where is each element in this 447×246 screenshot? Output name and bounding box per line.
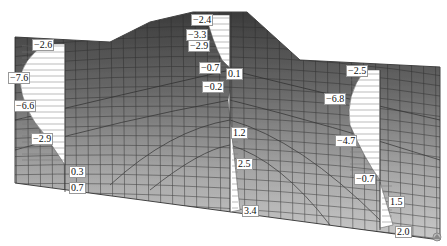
axis-triad-icon — [433, 233, 441, 241]
stress-value-label: 2.5 — [236, 158, 253, 170]
stress-value-label: 0.1 — [226, 68, 243, 80]
stress-value-label: −0.7 — [354, 173, 376, 185]
stress-value-label: −4.7 — [335, 135, 357, 147]
stress-value-label: 0.7 — [69, 182, 86, 194]
stress-value-label: −7.6 — [8, 72, 30, 84]
stress-value-label: 0.3 — [69, 166, 86, 178]
stress-value-label: −0.7 — [199, 62, 221, 74]
stress-value-label: −6.6 — [14, 100, 36, 112]
stress-value-label: 2.0 — [395, 226, 412, 238]
stress-value-label: −2.4 — [191, 14, 213, 26]
stress-value-label: −0.2 — [202, 81, 224, 93]
embankment-mesh-figure — [0, 0, 447, 246]
stress-value-label: −2.9 — [188, 40, 210, 52]
stress-value-label: 1.5 — [388, 196, 405, 208]
stress-value-label: 3.4 — [242, 205, 259, 217]
stress-value-label: −6.8 — [324, 93, 346, 105]
stress-value-label: −2.9 — [31, 133, 53, 145]
stress-value-label: −2.5 — [346, 65, 368, 77]
stress-value-label: −2.6 — [32, 39, 54, 51]
stress-value-label: 1.2 — [231, 127, 248, 139]
